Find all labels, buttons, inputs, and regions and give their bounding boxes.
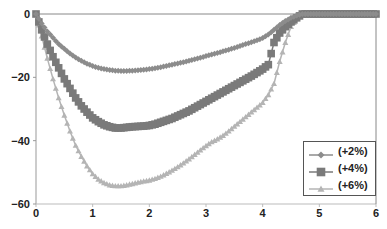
legend-label: (+4%) [338, 162, 368, 174]
y-tick-label: −40 [11, 135, 30, 147]
diamond-marker-icon [308, 146, 334, 156]
triangle-marker-icon [308, 180, 334, 190]
x-tick-label: 3 [203, 207, 209, 219]
x-tick-label: 1 [90, 207, 96, 219]
legend: (+2%) (+4%) (+6%) [303, 141, 376, 196]
y-tick-label: 0 [24, 8, 30, 20]
x-tick-label: 5 [316, 207, 322, 219]
series-square [32, 10, 380, 132]
legend-label: (+2%) [338, 145, 368, 157]
x-tick-label: 2 [146, 207, 152, 219]
x-tick-label: 0 [33, 207, 39, 219]
y-tick-label: −60 [11, 198, 30, 210]
x-tick-label: 4 [260, 207, 267, 219]
legend-item-2pct: (+2%) [304, 142, 375, 159]
square-marker-icon [308, 163, 334, 173]
series-diamond [33, 11, 379, 74]
x-tick-label: 6 [373, 207, 379, 219]
legend-item-6pct: (+6%) [304, 176, 375, 193]
legend-item-4pct: (+4%) [304, 159, 375, 176]
y-tick-label: −20 [11, 71, 30, 83]
legend-label: (+6%) [338, 179, 368, 191]
